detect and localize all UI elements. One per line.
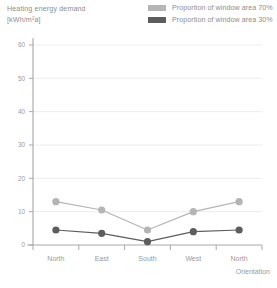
data-point-marker [190,208,197,215]
x-tick-label: East [95,255,109,262]
data-point-marker [98,206,105,213]
x-tick-label: West [185,255,201,262]
series-line-1 [56,202,239,230]
x-tick-label: North [231,255,248,262]
y-tick-label: 60 [18,41,26,48]
y-tick-label: 0 [21,241,25,248]
axis-lines [27,38,262,245]
x-axis-ticks: NorthEastSouthWestNorth [33,245,262,262]
y-tick-label: 20 [18,175,26,182]
y-tick-label: 40 [18,108,26,115]
data-point-marker [52,198,59,205]
x-tick-label: North [47,255,64,262]
y-tick-label: 30 [18,141,26,148]
y-axis-ticks: 0102030405060 [18,41,33,248]
data-point-marker [144,226,151,233]
gridlines [33,45,262,212]
plot-svg: 0102030405060 NorthEastSouthWestNorth Or… [0,0,277,288]
plot-area: 0102030405060 NorthEastSouthWestNorth Or… [0,0,277,288]
data-series-layer [52,198,242,245]
data-point-marker [190,228,197,235]
x-axis-label: Orientation [236,268,270,275]
data-point-marker [236,198,243,205]
data-point-marker [98,230,105,237]
data-point-marker [144,238,151,245]
chart-container: Heating energy demand [kWh/m²a] Proporti… [0,0,277,288]
x-tick-label: South [138,255,156,262]
data-point-marker [52,226,59,233]
y-tick-label: 50 [18,75,26,82]
data-point-marker [236,226,243,233]
y-tick-label: 10 [18,208,26,215]
